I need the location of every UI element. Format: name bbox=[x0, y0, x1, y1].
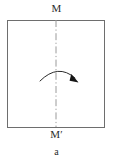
curved-arrow-head-icon bbox=[70, 74, 79, 82]
mirror-label-bottom: M′ bbox=[0, 128, 113, 141]
figure-caption: a bbox=[0, 146, 113, 158]
curved-arrow-icon bbox=[40, 71, 75, 81]
fold-diagram-figure: M M′ a bbox=[0, 0, 113, 165]
